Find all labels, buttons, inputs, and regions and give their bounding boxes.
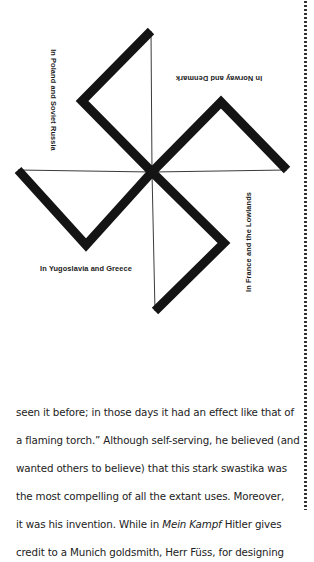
swastika-arm [18,170,152,245]
label-norway-denmark: In Norway and Denmark [176,74,262,81]
label-yugoslavia-greece: In Yugoslavia and Greece [40,265,132,272]
guide-line [18,170,152,172]
text-line: seen it before; in those days it had an … [16,398,298,426]
text-segment: it was his invention. While in [16,518,162,530]
text-line: a flaming torch.” Although self-serving,… [16,426,298,454]
text-line: the most compelling of all the extant us… [16,482,298,510]
guide-line [152,170,287,172]
text-line: credit to a Munich goldsmith, Herr Füss,… [16,538,298,562]
swastika-arm [82,31,152,172]
swastika-figure: In Poland and Soviet Russia In Norway an… [0,0,300,340]
label-france-lowlands: In France and the Lowlands [245,192,252,292]
dotted-margin-rule [304,0,307,510]
book-title-mein-kampf: Mein Kampf [162,518,221,530]
guide-line [152,172,155,311]
guide-line [151,31,152,172]
text-segment: Hitler gives [222,518,282,530]
text-line: wanted others to believe) that this star… [16,454,298,482]
label-poland-soviet-russia: In Poland and Soviet Russia [49,49,56,151]
text-line: it was his invention. While in Mein Kamp… [16,510,298,538]
swastika-arm [152,102,287,172]
swastika-diagram [0,0,300,340]
swastika-arm [152,172,224,311]
body-paragraph: seen it before; in those days it had an … [16,398,298,562]
